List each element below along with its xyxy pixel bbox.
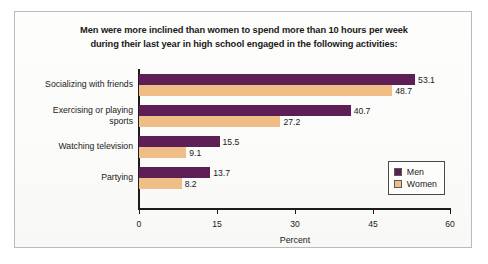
- category-label-socializing: Socializing with friends: [21, 79, 133, 90]
- bar-value-men-partying: 13.7: [213, 168, 230, 178]
- x-tick-45: [373, 210, 374, 214]
- bar-value-men-socializing: 53.1: [418, 75, 435, 85]
- chart-title-line-1: Men were more inclined than women to spe…: [37, 24, 451, 38]
- bar-men-socializing: 53.1: [139, 74, 415, 85]
- legend-swatch-women-icon: [394, 180, 402, 188]
- chart-title: Men were more inclined than women to spe…: [37, 24, 451, 51]
- category-label-partying-line-1: Partying: [101, 172, 133, 182]
- category-label-exercising-line-1: Exercising or playing: [53, 105, 133, 115]
- bar-men-partying: 13.7: [139, 167, 210, 178]
- category-label-television-line-1: Watching television: [58, 141, 133, 151]
- legend-label-women: Women: [407, 179, 437, 189]
- legend-swatch-men-icon: [394, 168, 402, 176]
- bar-value-women-socializing: 48.7: [395, 86, 412, 96]
- x-tick-label-15: 15: [212, 219, 222, 229]
- x-tick-15: [217, 210, 218, 214]
- x-tick-label-0: 0: [137, 219, 142, 229]
- category-label-exercising-line-2: sports: [109, 116, 133, 126]
- x-tick-60: [450, 210, 451, 214]
- bar-value-men-television: 15.5: [223, 137, 240, 147]
- bar-value-men-exercising: 40.7: [354, 106, 371, 116]
- chart-title-line-2: during their last year in high school en…: [37, 38, 451, 52]
- plot-area: 0 15 30 45 60 Percent Socializing with f…: [139, 69, 451, 209]
- chart-legend: Men Women: [388, 161, 445, 195]
- x-tick-label-45: 45: [368, 219, 378, 229]
- category-label-exercising: Exercising or playing sports: [21, 105, 133, 126]
- x-tick-0: [139, 210, 140, 214]
- x-tick-label-60: 60: [445, 219, 455, 229]
- bar-men-television: 15.5: [139, 136, 220, 147]
- bar-women-television: 9.1: [139, 147, 186, 158]
- bar-value-women-exercising: 27.2: [283, 117, 300, 127]
- x-tick-30: [295, 210, 296, 214]
- bar-women-socializing: 48.7: [139, 85, 392, 96]
- legend-item-women: Women: [394, 178, 437, 190]
- category-label-television: Watching television: [21, 141, 133, 152]
- legend-item-men: Men: [394, 166, 437, 178]
- bar-women-exercising: 27.2: [139, 116, 280, 127]
- bar-men-exercising: 40.7: [139, 105, 351, 116]
- category-label-socializing-line-1: Socializing with friends: [45, 79, 133, 89]
- figure-frame: Men were more inclined than women to spe…: [14, 11, 472, 248]
- bar-value-women-partying: 8.2: [185, 179, 197, 189]
- x-tick-label-30: 30: [290, 219, 300, 229]
- category-label-partying: Partying: [21, 172, 133, 183]
- bar-value-women-television: 9.1: [189, 148, 201, 158]
- bar-women-partying: 8.2: [139, 178, 182, 189]
- x-axis-label: Percent: [139, 235, 451, 245]
- legend-label-men: Men: [407, 167, 424, 177]
